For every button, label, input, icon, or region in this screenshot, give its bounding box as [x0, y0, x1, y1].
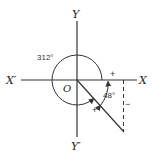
y-axis-negative-label: Y′: [71, 140, 81, 153]
x-segment-plus-sign: +: [110, 69, 115, 79]
origin-label: O: [63, 83, 71, 94]
x-axis-negative-label: X′: [5, 74, 17, 87]
terminal-ray: [77, 80, 124, 132]
x-axis-positive-label: X: [138, 74, 148, 87]
angle-diagram: Y Y′ X′ X O 312° 48° + + −: [0, 0, 153, 158]
vertical-minus-sign: −: [125, 99, 130, 109]
ray-plus-sign: +: [92, 105, 97, 115]
angle-48-label: 48°: [103, 91, 115, 100]
y-axis-positive-label: Y: [72, 8, 81, 21]
angle-312-label: 312°: [37, 53, 54, 62]
